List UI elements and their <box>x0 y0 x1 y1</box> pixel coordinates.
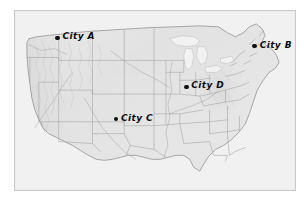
city-point-icon <box>184 85 188 89</box>
city-label: City B <box>260 40 292 51</box>
map-figure: City A City B City C City D <box>14 10 296 191</box>
city-label: City C <box>121 113 153 124</box>
page-root: City A City B City C City D <box>0 0 307 201</box>
city-label: City D <box>191 80 224 91</box>
city-point-icon <box>55 36 59 40</box>
city-label: City A <box>63 31 95 42</box>
